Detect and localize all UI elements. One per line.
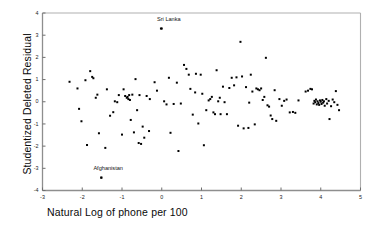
data-point [323, 100, 325, 102]
data-point [260, 87, 262, 89]
data-point [217, 100, 219, 102]
data-point [188, 74, 190, 76]
data-point [133, 131, 135, 133]
data-point [220, 113, 222, 115]
data-point [192, 114, 194, 116]
data-point [241, 75, 243, 77]
data-point [112, 111, 114, 113]
data-point [329, 118, 331, 120]
data-point [270, 115, 272, 117]
data-point [89, 70, 91, 72]
data-point [209, 98, 211, 100]
data-point [96, 94, 98, 96]
data-point [146, 95, 148, 97]
data-point [338, 109, 340, 111]
data-point [173, 103, 175, 105]
data-point [194, 91, 196, 93]
data-point [148, 130, 150, 132]
data-point [205, 109, 207, 111]
data-point [149, 98, 151, 100]
data-point [317, 102, 319, 104]
data-point [254, 123, 256, 125]
data-point [326, 103, 328, 105]
data-point [161, 28, 163, 30]
y-tick-label: -4 [19, 187, 39, 193]
y-tick-label: 2 [19, 54, 39, 60]
data-point [118, 94, 120, 96]
data-point [247, 127, 249, 129]
data-point [281, 105, 283, 107]
data-point [314, 101, 316, 103]
data-point [235, 76, 237, 78]
data-point [177, 150, 179, 152]
data-point [336, 104, 338, 106]
x-tick-label: -1 [112, 194, 132, 200]
data-point [129, 99, 131, 101]
data-point [170, 132, 172, 134]
data-point [248, 102, 250, 104]
axis-ticks [43, 13, 361, 191]
data-point [104, 147, 106, 149]
data-point [222, 86, 224, 88]
point-annotation: Afghanistan [93, 165, 123, 171]
data-point [231, 77, 233, 79]
y-tick-label: 4 [19, 10, 39, 16]
data-point [239, 41, 241, 43]
data-point [278, 98, 280, 100]
data-point [332, 99, 334, 101]
y-tick-label: -1 [19, 121, 39, 127]
data-point [195, 73, 197, 75]
data-point [228, 87, 230, 89]
x-tick-label: -2 [72, 194, 92, 200]
data-point [124, 95, 126, 97]
data-point [143, 137, 145, 139]
data-point [185, 68, 187, 70]
data-point [268, 106, 270, 108]
data-point [140, 143, 142, 145]
data-point [123, 88, 125, 90]
data-point [328, 100, 330, 102]
data-point [138, 142, 140, 144]
data-point [259, 89, 261, 91]
point-annotation: Sri Lanka [157, 16, 181, 22]
data-point [251, 91, 253, 93]
data-point [320, 101, 322, 103]
data-point [100, 177, 102, 179]
data-point [109, 115, 111, 117]
data-point [275, 120, 277, 122]
data-point [292, 111, 294, 113]
data-point [156, 90, 158, 92]
data-point [243, 127, 245, 129]
data-point [211, 96, 213, 98]
data-point [114, 100, 116, 102]
data-point [176, 82, 178, 84]
data-point [265, 57, 267, 59]
data-point [136, 109, 138, 111]
data-point [197, 122, 199, 124]
data-point [333, 101, 335, 103]
data-point [131, 94, 133, 96]
data-point [262, 99, 264, 101]
data-point [95, 97, 97, 99]
x-tick-label: 1 [192, 194, 212, 200]
data-point [286, 99, 288, 101]
data-point [189, 88, 191, 90]
data-point [271, 118, 273, 120]
data-point [305, 91, 307, 93]
x-tick-label: 4 [311, 194, 331, 200]
data-point [116, 101, 118, 103]
data-point [78, 108, 80, 110]
data-point [324, 105, 326, 107]
y-tick-label: -2 [19, 143, 39, 149]
data-point [216, 69, 218, 71]
data-point [237, 125, 239, 127]
scatter-plot-figure: Studentized Deleted Residual Natural Log… [0, 0, 374, 227]
data-point [224, 101, 226, 103]
data-point [219, 97, 221, 99]
data-point [183, 64, 185, 66]
data-point [263, 96, 265, 98]
data-point [201, 93, 203, 95]
x-tick-label: 0 [152, 194, 172, 200]
data-point [274, 89, 276, 91]
x-tick-label: 2 [231, 194, 251, 200]
